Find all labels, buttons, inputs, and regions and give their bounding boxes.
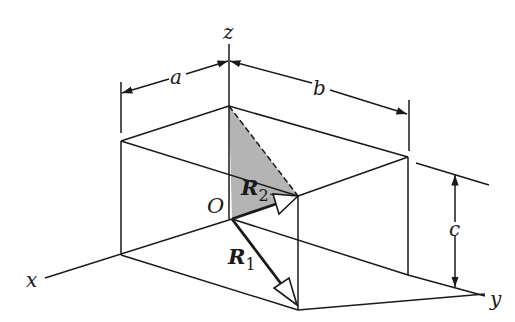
dim-c-extension-top [416, 163, 489, 185]
vector-r2-arrowhead [273, 194, 298, 214]
box-edge [408, 275, 485, 296]
box-edge [298, 157, 408, 196]
y-axis-label: y [489, 287, 502, 311]
box-edge [121, 255, 298, 310]
dim-a-line-left [122, 79, 169, 93]
box-edge [121, 106, 229, 141]
y-axis [298, 294, 485, 310]
dim-a-line-right [186, 61, 228, 74]
dim-a-label: a [170, 65, 182, 89]
dim-b-label: b [313, 76, 326, 100]
vector-r1-label: R1 [227, 244, 256, 274]
box-edge [232, 219, 408, 275]
x-axis [45, 219, 232, 278]
dim-c-label: c [449, 217, 460, 241]
dim-b-line-left [230, 61, 312, 83]
box-vector-diagram: z a b c x y O R2 R1 [0, 0, 515, 322]
dim-b-line-right [330, 90, 407, 114]
vector-r1-arrowhead [274, 278, 297, 305]
origin-label: O [207, 194, 224, 218]
x-axis-label: x [26, 268, 37, 292]
z-axis-label: z [222, 20, 234, 44]
